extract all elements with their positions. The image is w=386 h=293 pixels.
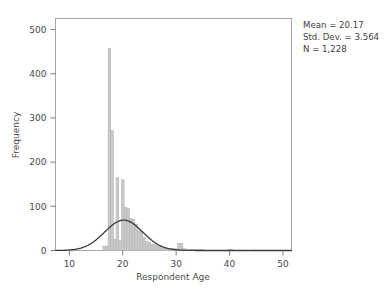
histogram-bar [137,231,140,251]
histogram-bar [124,207,127,250]
histogram-bar [108,49,111,251]
histogram-bar [135,224,138,251]
histogram-bar [151,244,154,250]
histogram-bar [103,246,106,250]
histogram-bars [103,49,282,251]
y-axis-tick-label: 0 [41,246,47,256]
histogram-plot: 1020304050 0100200300400500 Respondent A… [0,0,386,293]
y-axis-tick-labels: 0100200300400500 [29,25,46,256]
x-axis-tick-label: 30 [170,259,182,269]
normal-distribution-curve [56,220,292,250]
y-axis-tick-label: 200 [29,157,46,167]
histogram-bar [119,241,122,251]
histogram-bar [111,130,114,250]
histogram-bar [159,247,162,251]
statistics-annotation: Mean = 20.17 Std. Dev. = 3.564 N = 1,228 [303,20,379,54]
y-axis-tick-label: 300 [29,113,46,123]
sample-size-label: N = 1,228 [303,44,347,54]
histogram-bar [148,243,151,251]
mean-label: Mean = 20.17 [303,20,364,30]
plot-frame [56,19,292,251]
histogram-bar [121,180,124,251]
histogram-bar [105,246,108,250]
y-axis-tick-label: 400 [29,69,46,79]
x-axis-tick-label: 10 [64,259,76,269]
y-axis-tick-label: 500 [29,25,46,35]
histogram-bar [180,243,183,250]
histogram-bar [113,239,116,250]
histogram-figure: 1020304050 0100200300400500 Respondent A… [0,0,386,293]
stddev-label: Std. Dev. = 3.564 [303,32,379,42]
histogram-bar [127,209,130,251]
x-axis-ticks [69,251,283,256]
x-axis-tick-label: 50 [277,259,289,269]
histogram-bar [153,245,156,251]
x-axis-title: Respondent Age [136,272,210,282]
histogram-bar [140,231,143,250]
x-axis-tick-label: 40 [224,259,236,269]
y-axis-tick-label: 100 [29,202,46,212]
histogram-bar [143,237,146,250]
y-axis-ticks [51,30,56,251]
histogram-bar [145,242,148,251]
y-axis-title: Frequency [11,111,21,158]
histogram-bar [156,246,159,251]
histogram-bar [116,178,119,251]
x-axis-tick-label: 20 [117,259,129,269]
x-axis-tick-labels: 1020304050 [64,259,289,269]
